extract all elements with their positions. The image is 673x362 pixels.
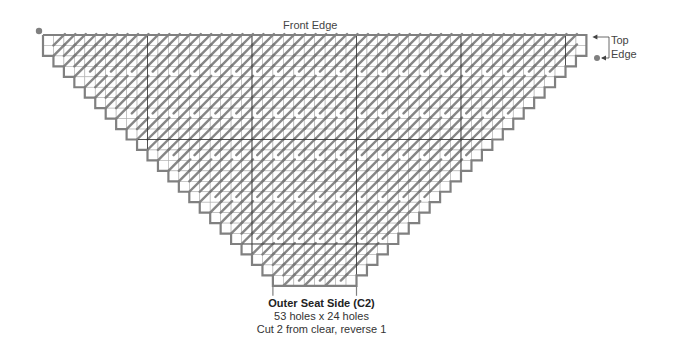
top-edge-label-line1: Top <box>611 33 637 47</box>
caption-instructions: Cut 2 from clear, reverse 1 <box>0 323 643 336</box>
front-edge-label: Front Edge <box>283 19 337 31</box>
caption-title: Outer Seat Side (C2) <box>0 297 643 310</box>
top-edge-label: Top Edge <box>611 33 637 61</box>
pattern-caption: Outer Seat Side (C2) 53 holes x 24 holes… <box>0 297 643 336</box>
top-edge-label-line2: Edge <box>611 47 637 61</box>
caption-dimensions: 53 holes x 24 holes <box>0 310 643 323</box>
